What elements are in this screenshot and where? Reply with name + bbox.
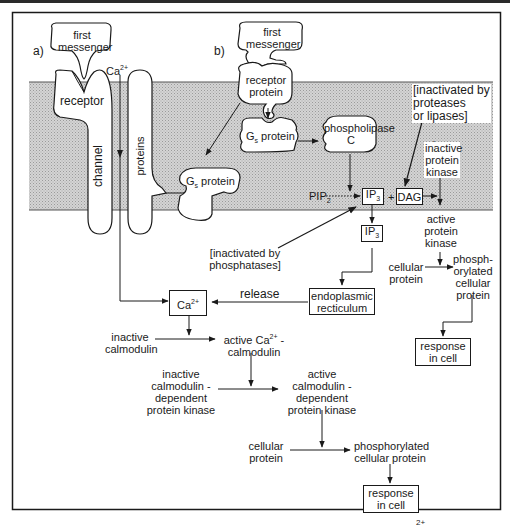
release-label: release bbox=[240, 288, 279, 300]
inactive-cam-kinase-label: inactive calmodulin - dependent protein … bbox=[146, 368, 216, 416]
panel-a-label: a) bbox=[33, 45, 44, 58]
inactivated-by-phosphatases-note: [inactivated byphosphatases] bbox=[205, 247, 285, 271]
first-messenger-label-b: firstmessenger bbox=[246, 26, 298, 50]
plus-sign: + bbox=[388, 191, 394, 203]
gs-protein-label-1: Gs protein bbox=[246, 130, 295, 147]
dag-box: DAG bbox=[396, 188, 423, 205]
pip2-label: PIP2 bbox=[309, 190, 331, 207]
receptor-label: receptor bbox=[60, 95, 104, 107]
receptor-protein-label: receptorprotein bbox=[244, 74, 288, 98]
calcium-box: Ca2+ bbox=[169, 290, 207, 316]
calcium-ion-label: Ca2+ bbox=[106, 62, 128, 77]
channel-label: channel bbox=[91, 147, 105, 187]
active-cam-kinase-label: active calmodulin - dependent protein ki… bbox=[286, 368, 358, 416]
phosphorylated-protein-label: phosphorylated cellular protein bbox=[354, 440, 426, 464]
proteins-label: proteins bbox=[134, 134, 146, 178]
cellular-protein-label: cellularprotein bbox=[248, 440, 284, 464]
active-protein-kinase-label: active protein kinase bbox=[422, 213, 460, 249]
caption-fragment: 2+ bbox=[416, 518, 425, 527]
cellular-protein-label-c: cellularprotein bbox=[388, 261, 424, 285]
inactive-calmodulin-label: inactivecalmodulin bbox=[105, 331, 155, 355]
response-in-cell-box: responsein cell bbox=[363, 485, 419, 513]
phosphorylated-protein-label-c: phosph- orylated cellular protein bbox=[453, 253, 493, 301]
ip3-cytosol-box: IP3 bbox=[361, 225, 383, 242]
inactive-protein-kinase-label: inactive protein kinase bbox=[424, 142, 460, 178]
gs-protein-label-2: Gs protein bbox=[186, 175, 235, 192]
endoplasmic-reticulum-box: endoplasmicrecticulum bbox=[309, 288, 375, 315]
inactivated-by-proteases-note: [inactivated by proteases or lipases] bbox=[412, 84, 491, 123]
response-in-cell-box-c: responsein cell bbox=[415, 338, 471, 366]
phospholipase-c-label: phospholipaseC bbox=[324, 122, 378, 146]
ip3-membrane-box: IP3 bbox=[362, 188, 384, 205]
panel-b-label: b) bbox=[214, 45, 225, 58]
first-messenger-label-a: firstmessenger bbox=[58, 29, 106, 53]
active-ca-calmodulin-label: active Ca2+ - calmodulin bbox=[218, 331, 290, 358]
